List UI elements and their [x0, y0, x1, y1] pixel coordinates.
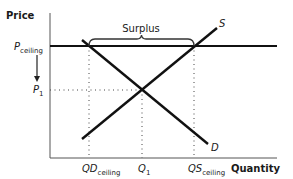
demand-curve — [82, 40, 208, 144]
arrow-head-icon — [34, 76, 40, 82]
price-ceiling-diagram: Surplus Price Quantity Pceiling P1 QDcei… — [0, 0, 293, 179]
p1-label: P1 — [33, 84, 44, 98]
q1-label: Q1 — [138, 163, 150, 177]
y-axis-title: Price — [6, 10, 35, 21]
qd-ceiling-label: QDceiling — [82, 163, 120, 177]
demand-label: D — [211, 142, 219, 153]
surplus-brace — [89, 35, 194, 46]
p-ceiling-label: Pceiling — [14, 41, 43, 55]
supply-label: S — [219, 18, 226, 29]
surplus-label: Surplus — [122, 23, 159, 34]
supply-curve — [82, 28, 217, 139]
qs-ceiling-label: QSceiling — [188, 163, 225, 177]
x-axis-title: Quantity — [231, 163, 280, 174]
